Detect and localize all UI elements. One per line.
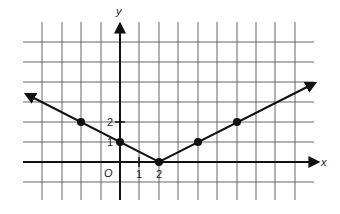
x-tick-label-2: 2 <box>156 168 162 180</box>
point-6-2 <box>233 118 241 126</box>
point-2-0 <box>155 158 163 166</box>
point-neg2-2 <box>77 118 85 126</box>
grid <box>23 22 314 200</box>
y-tick-label-1: 1 <box>107 136 113 148</box>
point-0-1 <box>116 138 124 146</box>
coordinate-plane: y x O 1 2 1 2 <box>0 0 340 214</box>
point-4-1 <box>194 138 202 146</box>
origin-label: O <box>104 167 113 179</box>
x-tick-label-1: 1 <box>136 168 142 180</box>
y-tick-label-2: 2 <box>107 116 113 128</box>
x-axis-label: x <box>320 156 327 168</box>
y-axis-label: y <box>115 5 123 17</box>
